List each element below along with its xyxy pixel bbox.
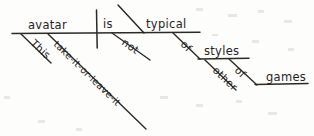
sentence-diagram-canvas: avatar is typical This take-it-or-leave-… <box>0 0 314 136</box>
word-styles: styles <box>204 44 239 58</box>
word-this: This <box>28 36 53 61</box>
word-avatar: avatar <box>28 18 67 32</box>
predicate-adjective-divider <box>118 5 144 33</box>
word-take-it-or-leave-it: take-it-or-leave-it <box>52 39 123 108</box>
subject-predicate-divider <box>97 10 98 48</box>
sentence-diagram-drawing: avatar is typical This take-it-or-leave-… <box>0 0 314 136</box>
object-baseline-styles <box>198 58 249 59</box>
main-baseline <box>12 32 200 33</box>
word-not: not <box>120 36 142 56</box>
word-is: is <box>103 17 113 31</box>
word-of-2: of <box>233 64 249 80</box>
word-typical: typical <box>146 17 186 31</box>
word-games: games <box>266 70 306 84</box>
